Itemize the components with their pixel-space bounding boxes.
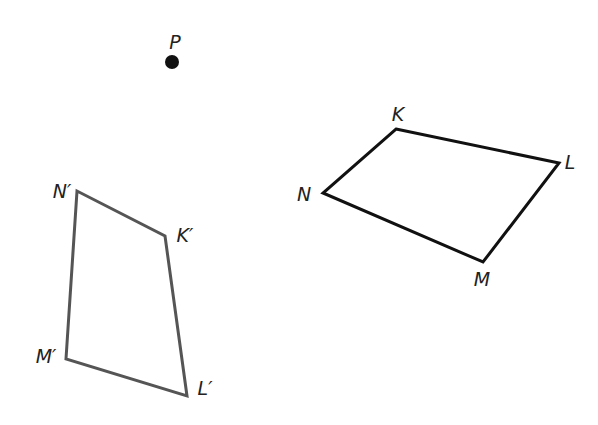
label-P: P (169, 31, 181, 53)
label-K-prime: K′ (177, 224, 194, 246)
transformation-diagram: K L M N K′ L′ M′ N′ P (0, 0, 598, 425)
quadrilateral-KLMN-prime (66, 191, 187, 396)
label-L: L (565, 151, 576, 173)
point-P-dot (165, 55, 179, 69)
original-quadrilateral-KLMN: K L M N (297, 103, 575, 290)
image-quadrilateral-KLMN-prime: K′ L′ M′ N′ (36, 180, 213, 399)
label-L-prime: L′ (198, 377, 214, 399)
quadrilateral-KLMN (323, 129, 559, 262)
label-M: M (474, 268, 490, 290)
label-M-prime: M′ (36, 345, 57, 367)
label-N-prime: N′ (53, 180, 72, 202)
label-K: K (392, 103, 406, 125)
label-N: N (297, 183, 311, 205)
point-P: P (165, 31, 181, 69)
